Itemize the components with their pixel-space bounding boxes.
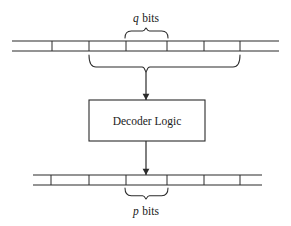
input-bus-ticks xyxy=(52,41,240,51)
q-bits-unit: bits xyxy=(142,12,159,24)
bus-to-decoder-arrow xyxy=(143,72,150,100)
q-bits-variable: q xyxy=(133,12,139,25)
output-bus xyxy=(33,175,262,185)
q-bits-brace xyxy=(125,28,168,38)
decoder-logic-block: Decoder Logic xyxy=(89,100,205,141)
decoder-logic-label: Decoder Logic xyxy=(113,115,182,128)
output-bus-ticks xyxy=(51,175,240,185)
figure-container: qbits Decoder Logic xyxy=(0,0,291,226)
p-bits-variable: p xyxy=(132,205,139,218)
input-group-brace xyxy=(89,55,240,72)
bus-to-decoder-arrow-head xyxy=(143,94,150,100)
p-bits-brace xyxy=(125,188,168,199)
decoder-to-bus-arrow xyxy=(143,141,150,175)
decoder-to-bus-arrow-head xyxy=(143,169,150,175)
q-bits-label: qbits xyxy=(133,12,159,25)
p-bits-unit: bits xyxy=(142,205,159,217)
input-bus xyxy=(12,41,279,51)
p-bits-label: pbits xyxy=(132,205,159,218)
decoder-block-diagram: qbits Decoder Logic xyxy=(0,0,291,226)
